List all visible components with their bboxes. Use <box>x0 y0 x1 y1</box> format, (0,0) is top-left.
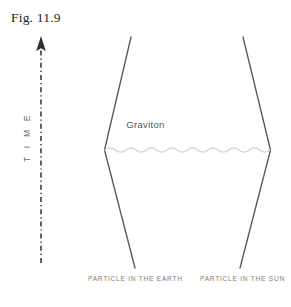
figure-canvas: Fig. 11.9 T I M E Graviton PARTICLE IN T… <box>0 0 291 307</box>
spacetime-diagram <box>0 0 291 307</box>
particle-in-the-earth-label: PARTICLE IN THE EARTH <box>88 275 183 282</box>
graviton-wave <box>105 148 270 152</box>
graviton-label: Graviton <box>0 119 291 130</box>
particle-in-the-sun-label: PARTICLE IN THE SUN <box>200 275 285 282</box>
